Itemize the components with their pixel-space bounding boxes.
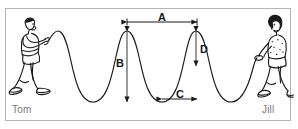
- wave-diagram-figure: A B C D Tom Jill: [0, 0, 298, 129]
- figure-border: [5, 8, 291, 121]
- person-label-tom: Tom: [12, 104, 32, 115]
- measurement-label-C: C: [176, 88, 184, 100]
- measurement-label-D: D: [200, 43, 208, 55]
- measurement-label-B: B: [116, 57, 124, 69]
- person-label-jill: Jill: [262, 104, 274, 115]
- measurement-label-A: A: [158, 11, 166, 23]
